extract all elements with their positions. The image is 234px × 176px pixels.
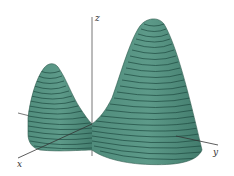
small-peak-surface (20, 55, 100, 165)
x-axis-label: x (17, 159, 22, 169)
y-axis-label: y (212, 147, 219, 157)
z-axis-label: z (94, 13, 100, 23)
surface-plot-figure: z x y (0, 0, 234, 176)
large-peak-surface (88, 12, 208, 170)
